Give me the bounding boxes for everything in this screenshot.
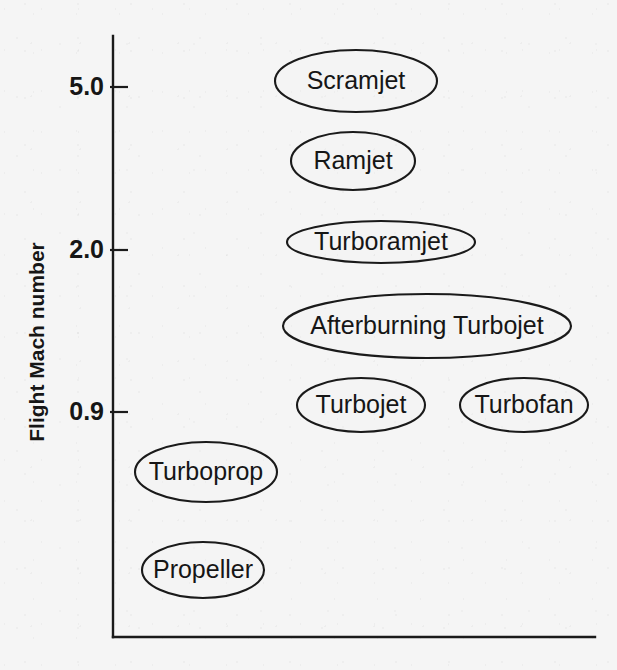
engine-bubble-label: Turboramjet <box>314 227 448 255</box>
chart-page: 5.02.00.9 Flight Mach number ScramjetRam… <box>0 0 617 670</box>
engine-bubble: Turboprop <box>135 442 277 502</box>
bubbles-group: ScramjetRamjetTurboramjetAfterburning Tu… <box>135 50 588 598</box>
engine-bubble-label: Propeller <box>153 555 253 583</box>
y-axis-ticks-group: 5.02.00.9 <box>69 72 128 425</box>
engine-bubble: Scramjet <box>275 50 437 112</box>
engine-bubble-label: Scramjet <box>307 66 406 94</box>
y-axis-title: Flight Mach number <box>25 242 48 442</box>
engine-bubble-label: Turbofan <box>474 390 573 418</box>
engine-bubble: Ramjet <box>291 132 415 190</box>
y-axis-title-group: Flight Mach number <box>25 242 48 442</box>
flight-mach-number-chart: 5.02.00.9 Flight Mach number ScramjetRam… <box>0 0 617 670</box>
y-axis-tick-label: 5.0 <box>69 72 104 100</box>
engine-bubble: Turbojet <box>297 378 425 432</box>
y-axis-tick-label: 0.9 <box>69 397 104 425</box>
engine-bubble: Propeller <box>142 542 264 598</box>
engine-bubble-label: Turbojet <box>316 390 407 418</box>
engine-bubble-label: Ramjet <box>313 146 392 174</box>
engine-bubble: Turboramjet <box>287 221 475 263</box>
engine-bubble: Afterburning Turbojet <box>283 294 571 358</box>
engine-bubble: Turbofan <box>460 378 588 432</box>
engine-bubble-label: Afterburning Turbojet <box>310 311 544 339</box>
engine-bubble-label: Turboprop <box>149 457 263 485</box>
y-axis-tick-label: 2.0 <box>69 235 104 263</box>
